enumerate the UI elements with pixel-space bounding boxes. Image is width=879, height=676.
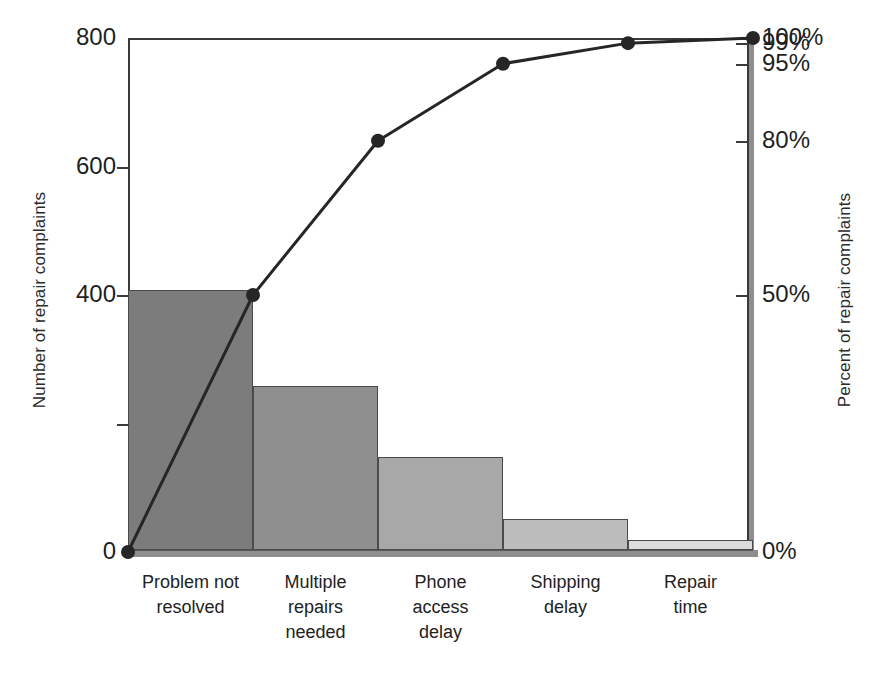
x-axis-category-label-line: resolved <box>128 595 253 620</box>
data-point-marker <box>496 57 510 71</box>
x-axis-category-label-line: Repair <box>628 570 753 595</box>
y-axis-left-tick-label: 0 <box>103 537 116 565</box>
pareto-chart-figure: Number of repair complaints Percent of r… <box>0 0 879 676</box>
x-axis-category-label-line: repairs <box>253 595 378 620</box>
y-axis-left-tick-label: 600 <box>76 152 116 180</box>
x-axis-category-label-line: Shipping <box>503 570 628 595</box>
x-axis-category-label-line: needed <box>253 620 378 645</box>
x-axis-category-label: Phoneaccessdelay <box>378 570 503 645</box>
data-point-marker <box>371 134 385 148</box>
y-axis-right-tick-label: 95% <box>762 49 810 77</box>
data-point-marker <box>621 36 635 50</box>
x-axis-category-label-line: access <box>378 595 503 620</box>
cumulative-percent-line <box>128 38 753 552</box>
y-axis-left-tick-label: 400 <box>76 280 116 308</box>
x-axis-category-label: Shippingdelay <box>503 570 628 645</box>
y-axis-right-title: Percent of repair complaints <box>835 135 855 465</box>
y-axis-right-tick-label: 80% <box>762 126 810 154</box>
cumulative-line-markers <box>121 31 760 559</box>
x-axis-category-label-line: time <box>628 595 753 620</box>
x-axis-category-label: Repairtime <box>628 570 753 645</box>
y-axis-left-tick-label: 800 <box>76 23 116 51</box>
data-point-marker <box>746 31 760 45</box>
x-axis-category-label-line: Phone <box>378 570 503 595</box>
x-axis-category-label-line: delay <box>503 595 628 620</box>
data-point-marker <box>121 545 135 559</box>
x-axis-category-label-line: delay <box>378 620 503 645</box>
y-axis-left-title: Number of repair complaints <box>30 135 50 465</box>
x-axis-category-label: Multiplerepairsneeded <box>253 570 378 645</box>
x-axis-category-label-line: Multiple <box>253 570 378 595</box>
x-axis-category-labels: Problem notresolvedMultiplerepairsneeded… <box>128 570 753 645</box>
plot-area: 8006004000 100%99%95%80%50%0% <box>128 38 753 552</box>
x-axis-category-label: Problem notresolved <box>128 570 253 645</box>
y-axis-right-tick-label: 50% <box>762 280 810 308</box>
data-point-marker <box>246 288 260 302</box>
cumulative-line-path <box>128 38 753 552</box>
y-axis-right-tick-label: 0% <box>762 537 797 565</box>
x-axis-category-label-line: Problem not <box>128 570 253 595</box>
